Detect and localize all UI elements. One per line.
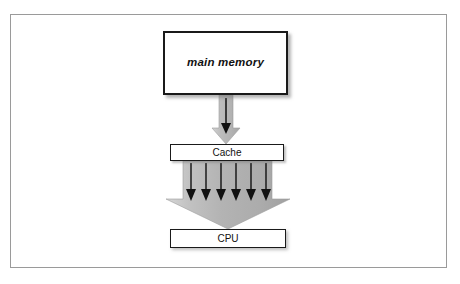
node-cpu-label: CPU: [217, 234, 238, 244]
node-main-memory: main memory: [163, 31, 288, 95]
figure-root: main memory Cache CPU: [0, 0, 460, 284]
node-cache-label: Cache: [213, 148, 242, 158]
node-main-memory-label: main memory: [187, 57, 264, 69]
node-cache: Cache: [170, 144, 284, 161]
node-cpu: CPU: [170, 229, 286, 248]
